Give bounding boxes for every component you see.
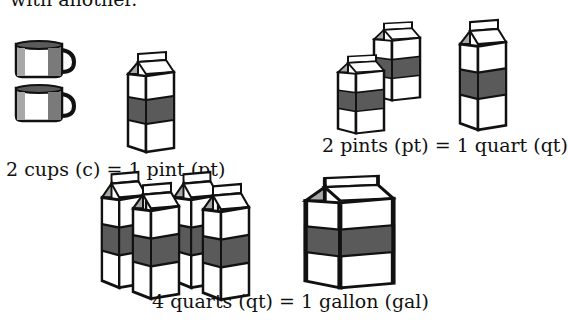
quart-carton-icon bbox=[458, 20, 508, 132]
intro-text: with another. bbox=[10, 0, 137, 10]
pint-carton-icon bbox=[125, 52, 177, 154]
quart-carton-icon bbox=[131, 183, 181, 301]
gallon-carton-icon bbox=[302, 176, 397, 290]
quart-carton-icon bbox=[201, 184, 251, 302]
cup-icon bbox=[12, 84, 72, 124]
caption-quarts-to-gallon: 4 quarts (qt) = 1 gallon (gal) bbox=[152, 290, 429, 312]
cup-icon bbox=[12, 40, 72, 80]
pint-carton-icon bbox=[336, 55, 386, 135]
caption-pints-to-quart: 2 pints (pt) = 1 quart (qt) bbox=[322, 134, 568, 156]
